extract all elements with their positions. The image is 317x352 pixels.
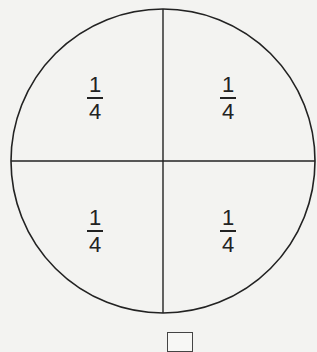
denominator: 4 (213, 101, 243, 123)
answer-box[interactable] (167, 332, 193, 352)
denominator: 4 (213, 234, 243, 256)
fraction-bottom-left: 1 4 (80, 207, 110, 256)
fraction-bottom-right: 1 4 (213, 207, 243, 256)
numerator: 1 (80, 74, 110, 96)
numerator: 1 (213, 207, 243, 229)
numerator: 1 (213, 74, 243, 96)
fraction-top-left: 1 4 (80, 74, 110, 123)
denominator: 4 (80, 234, 110, 256)
denominator: 4 (80, 101, 110, 123)
fraction-top-right: 1 4 (213, 74, 243, 123)
numerator: 1 (80, 207, 110, 229)
